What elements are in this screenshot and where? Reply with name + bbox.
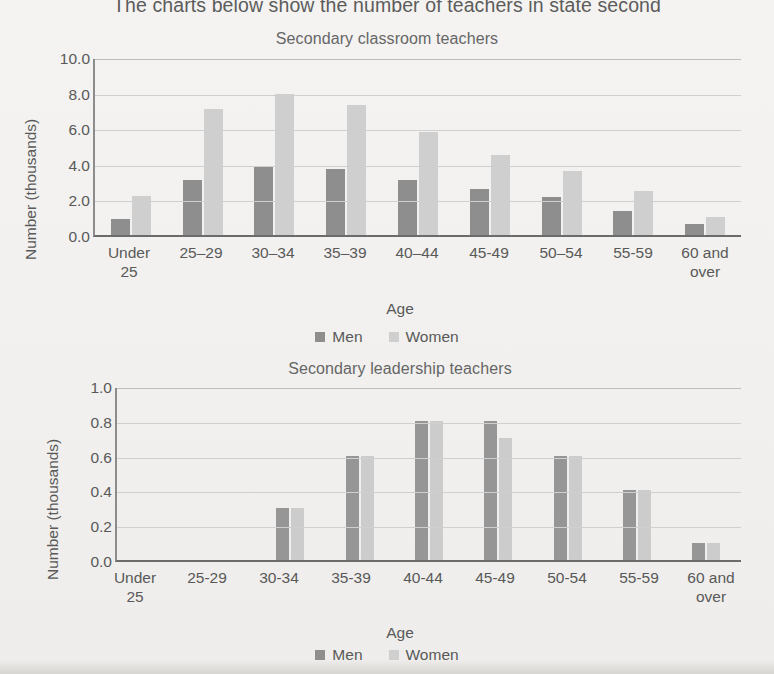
x-tick-label: Under 25: [93, 243, 165, 281]
y-tick-label: 0.6: [90, 450, 112, 466]
gridline: [95, 201, 741, 202]
x-tick-label: 60 and over: [675, 568, 747, 606]
bar-women: [569, 456, 582, 560]
gridline: [95, 130, 741, 131]
gridline: [95, 59, 741, 60]
legend-swatch-women-icon: [389, 650, 399, 660]
y-tick-label: 2.0: [68, 194, 90, 210]
bar-men: [183, 180, 202, 235]
bar-women: [563, 171, 582, 235]
x-tick-label: 45-49: [459, 568, 531, 606]
x-tick-label: 50-54: [531, 568, 603, 606]
bar-men: [276, 508, 289, 560]
bar-women: [347, 105, 366, 235]
bar-women: [275, 94, 294, 235]
legend-label-men: Men: [332, 328, 362, 346]
bar-men: [470, 189, 489, 235]
bar-group: [394, 388, 463, 560]
x-tick-label: 25–29: [165, 243, 237, 281]
gridline: [117, 458, 741, 459]
page-background: The charts below show the number of teac…: [0, 0, 774, 674]
bar-women: [499, 438, 512, 560]
bar-group: [167, 59, 239, 235]
gridline: [117, 388, 741, 389]
bar-women: [491, 155, 510, 235]
bar-group: [256, 388, 325, 560]
chart-title: Secondary classroom teachers: [0, 28, 774, 50]
y-axis-tick-labels: 0.02.04.06.08.010.0: [36, 59, 90, 237]
bar-men: [685, 224, 704, 235]
bar-group: [526, 59, 598, 235]
legend-label-women: Women: [406, 328, 459, 346]
bar-group: [382, 59, 454, 235]
chart-title: Secondary leadership teachers: [0, 358, 774, 380]
x-axis-tick-labels: Under 2525–2930–3435–3940–4445-4950–5455…: [93, 243, 741, 281]
legend-swatch-men-icon: [315, 650, 325, 660]
bar-group: [602, 388, 671, 560]
x-tick-label: 60 and over: [669, 243, 741, 281]
bar-women: [291, 508, 304, 560]
x-tick-label: 35–39: [309, 243, 381, 281]
x-tick-label: 45-49: [453, 243, 525, 281]
bar-men: [484, 421, 497, 560]
gridline: [117, 423, 741, 424]
x-axis-tick-labels: Under 2525-2930-3435-3940-4445-4950-5455…: [99, 568, 747, 606]
intro-text: The charts below show the number of teac…: [0, 0, 774, 17]
chart-secondary-classroom-teachers: Secondary classroom teachers Number (tho…: [0, 28, 774, 358]
legend-swatch-women-icon: [389, 332, 399, 342]
y-axis-tick-labels: 0.00.20.40.60.81.0: [58, 388, 112, 562]
plot-area: [93, 59, 741, 237]
bar-women: [430, 421, 443, 560]
bar-men: [554, 456, 567, 560]
bar-women: [634, 191, 653, 236]
bar-women: [361, 456, 374, 560]
gridline: [117, 492, 741, 493]
x-axis-title: Age: [340, 300, 460, 318]
bar-women: [419, 132, 438, 235]
y-tick-label: 0.8: [90, 415, 112, 431]
page-bottom-edge: [0, 660, 774, 674]
bar-men: [346, 456, 359, 560]
bar-men: [415, 421, 428, 560]
bar-men: [623, 490, 636, 560]
bar-group: [533, 388, 602, 560]
x-tick-label: 30–34: [237, 243, 309, 281]
y-tick-label: 4.0: [68, 158, 90, 174]
y-tick-label: 10.0: [60, 51, 90, 67]
y-tick-label: 6.0: [68, 122, 90, 138]
bar-men: [692, 543, 705, 560]
legend-swatch-men-icon: [315, 332, 325, 342]
bar-women: [706, 217, 725, 235]
bar-group: [310, 59, 382, 235]
bar-group: [454, 59, 526, 235]
gridline: [117, 527, 741, 528]
x-tick-label: 55-59: [603, 568, 675, 606]
bar-men: [111, 219, 130, 235]
x-tick-label: Under 25: [99, 568, 171, 606]
gridline: [95, 95, 741, 96]
bar-group: [186, 388, 255, 560]
plot-area: [115, 388, 741, 562]
chart-legend: Men Women: [0, 328, 774, 346]
bar-group: [597, 59, 669, 235]
bar-women: [707, 543, 720, 560]
bar-group: [325, 388, 394, 560]
bar-men: [542, 197, 561, 235]
x-axis-title: Age: [340, 624, 460, 642]
bar-group: [239, 59, 311, 235]
y-tick-label: 0.0: [68, 229, 90, 245]
y-tick-label: 8.0: [68, 87, 90, 103]
x-tick-label: 40-44: [387, 568, 459, 606]
bar-group: [117, 388, 186, 560]
bar-group: [669, 59, 741, 235]
bar-women: [638, 490, 651, 560]
x-tick-label: 25-29: [171, 568, 243, 606]
x-tick-label: 30-34: [243, 568, 315, 606]
x-tick-label: 50–54: [525, 243, 597, 281]
legend-item-men: Men: [315, 328, 362, 346]
x-tick-label: 35-39: [315, 568, 387, 606]
y-tick-label: 0.2: [90, 519, 112, 535]
bar-men: [398, 180, 417, 235]
bar-group: [672, 388, 741, 560]
y-tick-label: 1.0: [90, 380, 112, 396]
